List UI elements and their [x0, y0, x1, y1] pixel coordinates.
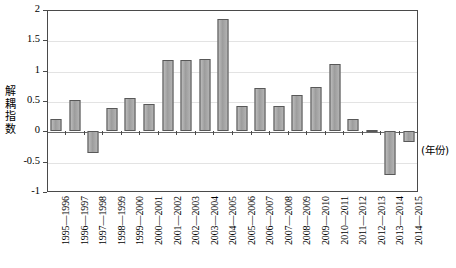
x-axis-tick-label: 1995—1996 — [60, 196, 71, 245]
bar — [218, 19, 229, 131]
bar-slot — [270, 10, 289, 192]
x-axis-tick-label: 2008—2009 — [301, 196, 312, 245]
bar — [366, 130, 377, 132]
bar — [144, 104, 155, 131]
bar — [125, 98, 136, 131]
x-axis-tick-labels: 1995—19961996—19971997—19981998—19991999… — [47, 196, 418, 266]
bar — [162, 60, 173, 132]
x-axis-tick-label: 2002—2003 — [190, 196, 201, 245]
bar — [310, 87, 321, 131]
x-axis-tick-label: 2006—2007 — [264, 196, 275, 245]
bar-slot — [158, 10, 177, 192]
bar-slot — [66, 10, 85, 192]
bar — [69, 100, 80, 131]
x-axis-tick-label: 2003—2004 — [209, 196, 220, 245]
x-axis-tick-label: 2013—2014 — [394, 196, 405, 245]
y-axis-tick-label: -1 — [31, 185, 40, 196]
bar-slot — [140, 10, 159, 192]
x-axis-tick-label: 2005—2006 — [246, 196, 257, 245]
x-axis-tick-label: 2012—2013 — [376, 196, 387, 245]
x-axis-tick-label: 1997—1998 — [97, 196, 108, 245]
bars-layer — [47, 10, 418, 192]
bar — [403, 131, 414, 141]
bar-slot — [121, 10, 140, 192]
bar-slot — [325, 10, 344, 192]
bar — [255, 88, 266, 132]
bar-slot — [381, 10, 400, 192]
bar-slot — [399, 10, 418, 192]
bar-slot — [84, 10, 103, 192]
x-axis-tick-label: 2007—2008 — [283, 196, 294, 245]
x-axis-tick-label: 2004—2005 — [227, 196, 238, 245]
bar — [236, 106, 247, 131]
y-axis-tick-label: 2 — [35, 3, 40, 14]
bar-slot — [233, 10, 252, 192]
bar-slot — [214, 10, 233, 192]
x-axis-tick-label: 2011—2012 — [357, 196, 368, 245]
x-axis-tick-label: 2010—2011 — [339, 196, 350, 245]
bar-slot — [103, 10, 122, 192]
y-axis-tick-label: -0.5 — [23, 155, 40, 166]
decoupling-index-bar-chart: 解耦指数 21.510.50-0.5-1 1995—19961996—19971… — [0, 0, 456, 268]
x-axis-tick-label: 1998—1999 — [116, 196, 127, 245]
bar — [329, 64, 340, 131]
bar — [348, 119, 359, 131]
bar-slot — [195, 10, 214, 192]
bar-slot — [362, 10, 381, 192]
x-axis-tick-label: 2009—2010 — [320, 196, 331, 245]
bar-slot — [307, 10, 326, 192]
bar-slot — [177, 10, 196, 192]
y-axis-title: 解耦指数 — [2, 86, 18, 136]
x-axis-unit-label: (年份) — [421, 142, 449, 157]
x-axis-tick-label: 2001—2002 — [172, 196, 183, 245]
bar — [88, 131, 99, 152]
bar — [181, 60, 192, 132]
bar — [273, 106, 284, 131]
bar — [292, 95, 303, 131]
x-axis-tick-label: 1999—2000 — [134, 196, 145, 245]
x-axis-tick-label: 2000—2001 — [153, 196, 164, 245]
x-axis-tick-label: 1996—1997 — [79, 196, 90, 245]
y-axis-tick-label: 1.5 — [27, 33, 40, 44]
x-axis-tick-label: 2014—2015 — [413, 196, 424, 245]
bar — [385, 131, 396, 175]
bar-slot — [47, 10, 66, 192]
bar — [199, 59, 210, 132]
bar — [106, 108, 117, 131]
x-axis-tick-mark — [417, 131, 418, 135]
y-axis-tick-mark — [43, 192, 47, 193]
bar-slot — [251, 10, 270, 192]
bar — [51, 119, 62, 132]
y-axis-tick-label: 1 — [35, 64, 40, 75]
bar-slot — [288, 10, 307, 192]
y-axis-tick-label: 0 — [35, 124, 40, 135]
bar-slot — [344, 10, 363, 192]
y-axis-tick-label: 0.5 — [27, 94, 40, 105]
